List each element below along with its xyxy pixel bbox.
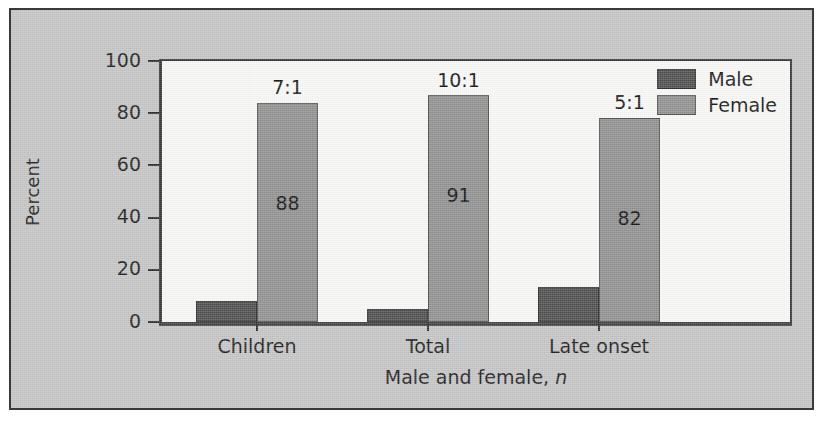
y-tick-label: 40: [117, 207, 141, 226]
legend-label-male: Male: [708, 70, 753, 89]
bar-male-late-onset: [538, 287, 599, 322]
legend-item-female: Female: [657, 95, 777, 115]
x-axis-title-italic-n: n: [555, 366, 567, 388]
ratio-label-total: 10:1: [419, 71, 499, 90]
y-tick-label: 20: [117, 259, 141, 278]
bar-value-label: 91: [429, 184, 488, 206]
x-tick-total: [427, 322, 429, 331]
x-tick-children: [256, 322, 258, 331]
legend: Male Female: [657, 69, 777, 115]
bar-female-total: 91: [428, 95, 489, 322]
y-axis-title: Percent: [22, 112, 43, 272]
x-tick-label-total: Total: [348, 335, 508, 357]
y-tick-label: 100: [105, 51, 141, 70]
bar-male-total: [367, 309, 428, 322]
y-tick-mark: [148, 112, 159, 114]
y-tick-mark: [148, 60, 159, 62]
legend-swatch-male: [657, 69, 696, 89]
legend-item-male: Male: [657, 69, 777, 89]
y-tick-label: 60: [117, 155, 141, 174]
y-tick-mark: [148, 269, 159, 271]
x-axis-title-text: Male and female,: [385, 366, 549, 388]
bar-male-children: [196, 301, 257, 322]
y-tick-mark: [148, 164, 159, 166]
figure-root: 100 80 60 40 20 0 Perc: [0, 0, 833, 421]
legend-swatch-female: [657, 95, 696, 115]
y-tick-mark: [148, 321, 159, 323]
bar-value-label: 82: [600, 207, 659, 229]
x-tick-label-late-onset: Late onset: [519, 335, 679, 357]
x-tick-label-children: Children: [177, 335, 337, 357]
legend-label-female: Female: [708, 96, 777, 115]
bar-female-children: 88: [257, 103, 318, 322]
plot-area: 100 80 60 40 20 0 Perc: [159, 59, 792, 326]
bar-female-late-onset: 82: [599, 118, 660, 322]
bar-value-label: 88: [258, 192, 317, 214]
x-axis-title: Male and female, n: [162, 366, 790, 388]
y-tick-mark: [148, 217, 159, 219]
x-tick-late-onset: [598, 322, 600, 331]
figure-frame: 100 80 60 40 20 0 Perc: [9, 8, 814, 410]
y-tick-label: 80: [117, 103, 141, 122]
ratio-label-children: 7:1: [248, 78, 328, 97]
y-tick-label: 0: [129, 312, 141, 331]
